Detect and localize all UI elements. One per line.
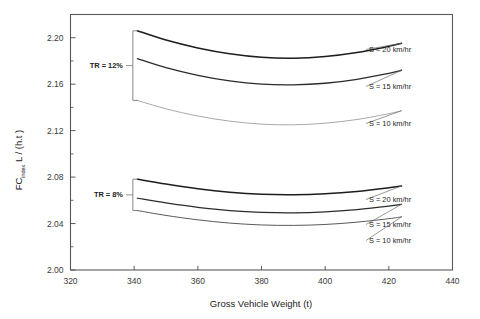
- x-tick-label-380: 380: [254, 276, 268, 286]
- series-label-10-kmh: S = 10 km/hr: [369, 236, 412, 245]
- group-label-tr-8: TR = 8%: [94, 190, 123, 199]
- y-axis-title: FCindex L / (h.t ): [13, 130, 26, 191]
- y-tick-label-2.08: 2.08: [47, 172, 64, 182]
- series-label-15-kmh: S = 15 km/hr: [369, 82, 412, 91]
- y-tick-label-2.00: 2.00: [47, 265, 64, 275]
- x-tick-label-360: 360: [191, 276, 205, 286]
- x-tick-label-420: 420: [382, 276, 396, 286]
- y-tick-label-2.16: 2.16: [47, 79, 64, 89]
- y-axis-title-text: FCindex L / (h.t ): [13, 130, 26, 191]
- fc-index-vs-gross-vehicle-weight-chart: 2.002.042.082.122.162.20 320340360380400…: [0, 0, 480, 319]
- x-tick-label-340: 340: [127, 276, 141, 286]
- y-tick-label-2.20: 2.20: [47, 33, 64, 43]
- y-tick-label-2.04: 2.04: [47, 219, 64, 229]
- x-axis-title: Gross Vehicle Weight (t): [210, 298, 312, 309]
- series-label-20-kmh: S = 20 km/hr: [369, 45, 412, 54]
- chart-container: 2.002.042.082.122.162.20 320340360380400…: [0, 0, 480, 319]
- series-label-10-kmh: S = 10 km/hr: [369, 119, 412, 128]
- x-tick-label-440: 440: [445, 276, 459, 286]
- series-label-20-kmh: S = 20 km/hr: [369, 195, 412, 204]
- group-label-tr-12: TR = 12%: [90, 61, 123, 70]
- x-tick-label-320: 320: [63, 276, 77, 286]
- y-tick-label-2.12: 2.12: [47, 126, 64, 136]
- x-tick-label-400: 400: [318, 276, 332, 286]
